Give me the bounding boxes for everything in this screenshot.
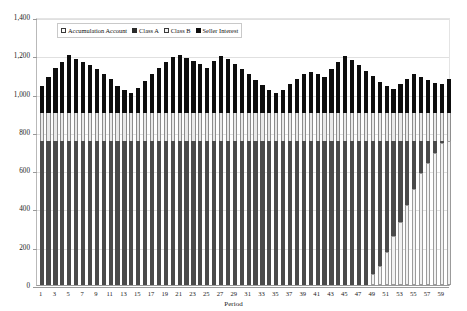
- bar-segment-class-a: [233, 141, 237, 285]
- x-axis-tick-label: 57: [424, 290, 431, 297]
- legend-item-accumulation-account[interactable]: Accumulation Account: [61, 27, 127, 34]
- gridline: [37, 287, 449, 288]
- bar-segment-accumulation-account: [433, 153, 437, 285]
- bar-stack: [316, 74, 320, 285]
- bar-segment-class-a: [440, 141, 444, 143]
- x-axis-tick-label: 17: [148, 290, 155, 297]
- bar-stack: [274, 93, 278, 285]
- legend-item-class-b[interactable]: Class B: [164, 27, 191, 34]
- bar-segment-class-b: [240, 113, 244, 142]
- bar-stack: [357, 65, 361, 285]
- bar-segment-seller-interest: [67, 55, 71, 112]
- chart-root: 02004006008001,0001,2001,400 Million $ 1…: [0, 0, 467, 311]
- bar-stack: [309, 72, 313, 285]
- legend-label: Class B: [171, 27, 191, 34]
- bar-segment-accumulation-account: [447, 141, 451, 285]
- bar-stack: [419, 77, 423, 285]
- bar-stack: [440, 84, 444, 285]
- bar-stack: [74, 59, 78, 285]
- bar-stack: [205, 68, 209, 285]
- bar-stack: [226, 59, 230, 285]
- bar-segment-class-a: [81, 141, 85, 285]
- bar-segment-seller-interest: [205, 68, 209, 113]
- legend-item-seller-interest[interactable]: Seller Interest: [196, 27, 239, 34]
- x-axis-tick-label: 1: [39, 290, 42, 297]
- legend-item-class-a[interactable]: Class A: [132, 27, 159, 34]
- bar-segment-seller-interest: [447, 79, 451, 113]
- bar-segment-seller-interest: [81, 62, 85, 113]
- x-axis-tick-label: 29: [231, 290, 238, 297]
- bar-segment-seller-interest: [357, 65, 361, 113]
- bar-segment-seller-interest: [198, 64, 202, 113]
- x-axis-tick-label: 21: [175, 290, 182, 297]
- bar-segment-seller-interest: [88, 65, 92, 113]
- y-axis-tick-label: 1,000: [14, 91, 30, 99]
- legend-swatch-icon: [164, 28, 169, 33]
- bar-segment-class-b: [371, 113, 375, 142]
- bar-segment-class-b: [205, 113, 209, 142]
- bar-stack: [405, 79, 409, 285]
- bar-segment-seller-interest: [316, 74, 320, 112]
- x-axis-tick-label: 5: [67, 290, 70, 297]
- bar-segment-class-a: [412, 141, 416, 189]
- bar-segment-class-b: [412, 113, 416, 142]
- bar-stack: [150, 74, 154, 285]
- bar-segment-class-b: [336, 113, 340, 142]
- bar-segment-class-b: [440, 113, 444, 142]
- bar-stack: [115, 86, 119, 285]
- bar-segment-seller-interest: [260, 85, 264, 113]
- bar-segment-class-a: [391, 141, 395, 236]
- bar-segment-class-a: [60, 141, 64, 285]
- bar-stack: [267, 90, 271, 285]
- bar-segment-seller-interest: [267, 90, 271, 113]
- bar-segment-accumulation-account: [385, 252, 389, 286]
- legend-label: Accumulation Account: [68, 27, 127, 34]
- x-axis-tick-label: 41: [313, 290, 320, 297]
- bar-stack: [364, 71, 368, 285]
- bar-segment-class-b: [391, 113, 395, 142]
- y-axis-tick-label: 1,400: [14, 14, 30, 22]
- x-axis-tick-label: 43: [327, 290, 334, 297]
- bar-stack: [398, 84, 402, 285]
- bar-segment-class-a: [184, 141, 188, 285]
- bar-stack: [198, 64, 202, 285]
- bar-segment-seller-interest: [60, 62, 64, 113]
- bar-segment-class-a: [405, 141, 409, 204]
- x-axis-tick-label: 55: [410, 290, 417, 297]
- bar-segment-class-b: [129, 113, 133, 142]
- bar-segment-class-b: [109, 113, 113, 142]
- bar-stack: [122, 90, 126, 285]
- bar-segment-class-b: [309, 113, 313, 142]
- y-axis-tick-label: 0: [26, 282, 30, 290]
- bar-segment-class-a: [302, 141, 306, 285]
- bar-segment-class-b: [212, 113, 216, 142]
- bar-segment-seller-interest: [247, 74, 251, 112]
- bar-segment-class-a: [122, 141, 126, 285]
- bar-segment-class-b: [357, 113, 361, 142]
- bar-segment-class-b: [378, 113, 382, 142]
- bar-segment-class-a: [102, 141, 106, 285]
- bar-segment-class-b: [226, 113, 230, 142]
- bar-segment-class-a: [378, 141, 382, 265]
- bar-segment-seller-interest: [274, 93, 278, 113]
- legend-swatch-icon: [61, 28, 66, 33]
- bar-stack: [136, 88, 140, 285]
- bar-segment-class-a: [247, 141, 251, 285]
- bar-segment-class-a: [95, 141, 99, 285]
- bar-stack: [46, 77, 50, 285]
- chart-legend: Accumulation AccountClass AClass BSeller…: [57, 23, 242, 38]
- bar-segment-class-a: [316, 141, 320, 285]
- bar-stack: [412, 74, 416, 285]
- bar-segment-class-b: [350, 113, 354, 142]
- x-axis-tick-label: 27: [217, 290, 224, 297]
- bar-stack: [281, 90, 285, 285]
- bar-stack: [53, 68, 57, 285]
- x-axis-tick-label: 53: [396, 290, 403, 297]
- x-axis-tick-label: 19: [162, 290, 169, 297]
- bar-segment-accumulation-account: [398, 222, 402, 285]
- bar-segment-seller-interest: [136, 88, 140, 113]
- bar-segment-seller-interest: [426, 80, 430, 113]
- bar-segment-seller-interest: [398, 84, 402, 113]
- bar-segment-class-b: [247, 113, 251, 142]
- bar-segment-seller-interest: [412, 74, 416, 112]
